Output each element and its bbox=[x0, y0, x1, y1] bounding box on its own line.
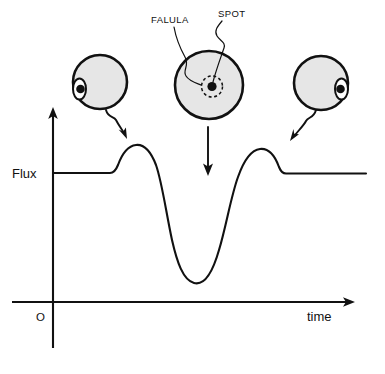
star-right-spot-icon bbox=[336, 85, 345, 94]
origin-label: O bbox=[36, 311, 45, 323]
connector-right-path bbox=[295, 110, 316, 135]
facula-label: FALULA bbox=[151, 14, 189, 25]
axes-group bbox=[12, 107, 355, 348]
star-right bbox=[294, 56, 348, 110]
star-middle bbox=[175, 51, 243, 119]
spot-label: SPOT bbox=[218, 8, 245, 19]
diagram-canvas: Flux time O FALULA SPOT bbox=[0, 0, 385, 374]
y-axis-label: Flux bbox=[12, 166, 37, 181]
star-middle-spot-icon bbox=[207, 82, 216, 91]
connector-right-star-to-curve bbox=[290, 110, 316, 141]
connector-left-path bbox=[106, 110, 124, 133]
star-left bbox=[73, 55, 127, 109]
connector-left-arrowhead-icon bbox=[119, 127, 127, 139]
connector-left-star-to-curve bbox=[106, 110, 127, 139]
star-left-spot-icon bbox=[76, 85, 85, 94]
light-curve-figure: Flux time O FALULA SPOT bbox=[0, 0, 385, 374]
x-axis-label: time bbox=[307, 309, 332, 324]
connector-middle-star-to-curve bbox=[203, 127, 213, 176]
